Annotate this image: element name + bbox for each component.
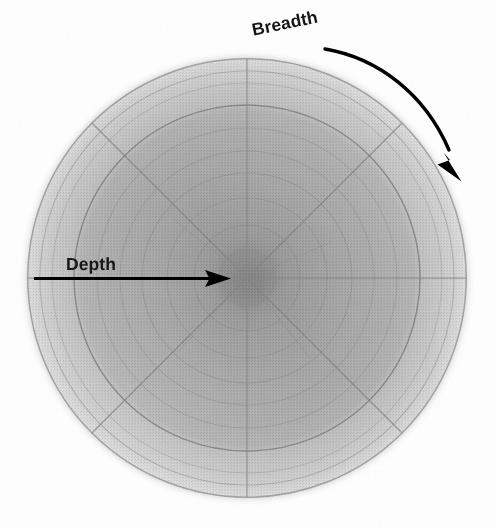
depth-label: Depth	[66, 254, 116, 275]
figure-root: Depth Breadth	[0, 0, 496, 527]
